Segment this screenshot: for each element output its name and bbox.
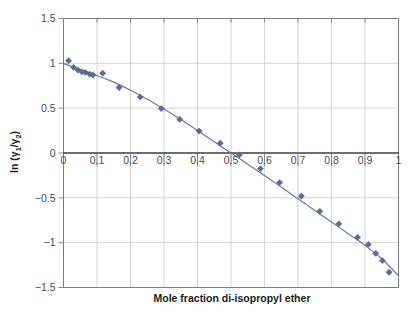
x-tick-label: 1: [396, 154, 402, 166]
x-tick-label: 0.4: [190, 154, 205, 166]
x-tick-label: 0.1: [90, 154, 105, 166]
y-tick-label: 0.5: [41, 102, 56, 114]
y-tick-label: −1: [44, 236, 56, 248]
y-tick-label: 1: [50, 57, 56, 69]
x-tick-label: 0: [61, 154, 67, 166]
x-tick-label: 0.7: [291, 154, 306, 166]
x-tick-label: 0.6: [257, 154, 272, 166]
scatter-chart: 00.10.20.30.40.50.60.70.80.91 1.510.50−0…: [0, 0, 411, 312]
y-tick-label: −0.5: [35, 192, 56, 204]
x-tick-label: 0.3: [157, 154, 172, 166]
y-axis-title-suffix: ): [8, 131, 20, 135]
chart-container: 00.10.20.30.40.50.60.70.80.91 1.510.50−0…: [0, 0, 411, 312]
x-tick-label: 0.2: [123, 154, 138, 166]
y-tick-label: −1.5: [35, 281, 56, 293]
x-tick-label: 0.8: [324, 154, 339, 166]
x-axis-title: Mole fraction di-isopropyl ether: [154, 292, 311, 304]
x-tick-label: 0.5: [224, 154, 239, 166]
x-tick-label: 0.9: [358, 154, 373, 166]
y-tick-label: 0: [50, 147, 56, 159]
y-axis-title-prefix: ln (: [8, 157, 20, 173]
y-tick-label: 1.5: [41, 12, 56, 24]
